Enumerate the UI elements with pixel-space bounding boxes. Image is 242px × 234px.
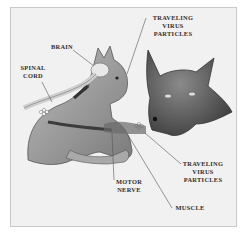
fox-eye-icon (165, 94, 171, 97)
label-spinal-cord: Spinal cord (16, 64, 50, 80)
rabies-illustration (0, 0, 242, 234)
label-line: Traveling (148, 14, 198, 22)
label-line: Muscle (172, 204, 208, 212)
label-traveling-virus-top: Traveling virus particles (148, 14, 198, 38)
label-line: Motor (112, 178, 146, 186)
label-line: virus (178, 168, 228, 176)
label-line: cord (16, 72, 50, 80)
label-motor-nerve: Motor nerve (112, 178, 146, 194)
fox-eye-icon (189, 92, 195, 95)
label-line: Traveling (178, 160, 228, 168)
label-line: Brain (46, 43, 78, 51)
label-line: nerve (112, 186, 146, 194)
label-line: particles (178, 176, 228, 184)
cat-eye-icon (115, 76, 118, 79)
label-line: particles (148, 30, 198, 38)
label-line: Spinal (16, 64, 50, 72)
fox-figure (147, 50, 232, 136)
fox-nose-icon (153, 117, 157, 121)
label-traveling-virus-bottom: Traveling virus particles (178, 160, 228, 184)
label-brain: Brain (46, 43, 78, 51)
label-line: virus (148, 22, 198, 30)
label-muscle: Muscle (172, 204, 208, 212)
